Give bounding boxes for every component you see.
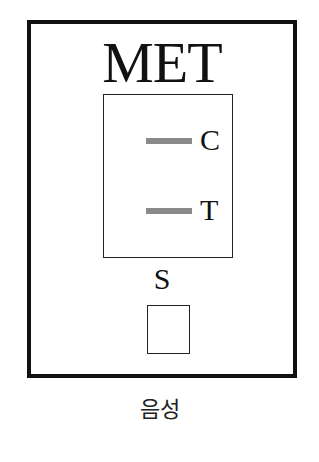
sample-well-label: S (31, 264, 293, 294)
result-window: C T (103, 94, 233, 258)
sample-well (147, 305, 190, 354)
result-caption: 음성 (0, 396, 319, 424)
test-band-label: T (200, 195, 218, 225)
cassette-title: MET (31, 32, 293, 94)
test-cassette: MET C T S (27, 20, 297, 378)
test-band (146, 208, 192, 214)
control-band-label: C (200, 125, 220, 155)
control-band (146, 138, 192, 144)
